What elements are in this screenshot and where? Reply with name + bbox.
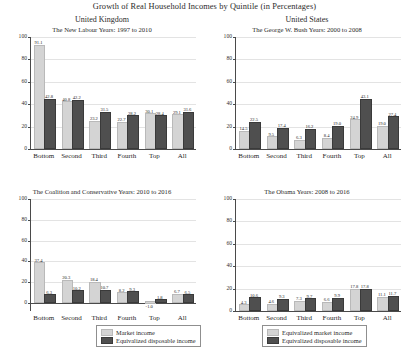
bar — [100, 112, 112, 149]
y-axis-tick-label: 20 — [21, 124, 27, 130]
bar-value-label: 43.1 — [356, 95, 374, 100]
plot-area: 02040608010037.46.3Bottom20.310.2Second1… — [30, 199, 196, 311]
legend-united-kingdom: Market incomeEquivalized disposable inco… — [96, 325, 201, 347]
bar-group: 19.027.4 — [377, 37, 397, 149]
x-axis-line — [235, 311, 401, 312]
bar — [305, 298, 317, 311]
bar — [72, 100, 84, 149]
legend-item: Market income — [101, 328, 196, 336]
bar-group: 37.46.3 — [34, 199, 54, 311]
bar — [155, 115, 167, 149]
bar-group: 91.142.8 — [34, 37, 54, 149]
plot-area: 02040608010014.522.5Bottom9.517.4Second6… — [235, 37, 401, 149]
y-axis-line — [235, 37, 236, 149]
bar-value-label: 18.4 — [85, 278, 103, 283]
x-axis-line — [30, 303, 196, 304]
plot-area: 02040608010091.142.8Bottom40.842.2Second… — [30, 37, 196, 149]
bar — [332, 126, 344, 149]
bar-group: 14.522.5 — [239, 37, 259, 149]
bar — [360, 289, 372, 311]
bar-value-label: 31.5 — [96, 108, 114, 113]
bar — [249, 297, 261, 311]
bar-group: 11.111.7 — [377, 199, 397, 311]
y-axis-tick-label: 60 — [226, 79, 232, 85]
bar-group: -1.01.8 — [145, 199, 165, 311]
bar-group: 8.29.3 — [117, 199, 137, 311]
bar-value-label: 10.7 — [96, 286, 114, 291]
gridline — [235, 221, 401, 222]
bar — [72, 290, 84, 303]
y-axis-tick-label: 40 — [226, 263, 232, 269]
bar-value-label: 6.5 — [179, 291, 197, 296]
bar-value-label: 91.1 — [30, 41, 48, 46]
legend-item: Equivalized market income — [267, 328, 362, 336]
bar — [277, 128, 289, 149]
panel-top-left: The New Labour Years: 1997 to 2010 02040… — [0, 26, 204, 184]
y-axis-line — [235, 199, 236, 311]
panel-subtitle: The Coalition and Conservative Years: 20… — [0, 188, 204, 195]
bar-group: 18.410.7 — [89, 199, 109, 311]
legend-label: Market income — [116, 329, 155, 336]
bar-value-label: 27.4 — [384, 113, 402, 118]
bar-group: 24.943.1 — [350, 37, 370, 149]
gridline — [30, 82, 196, 83]
bar-value-label: 9.7 — [301, 295, 319, 300]
bar-value-label: 10.6 — [245, 294, 263, 299]
bar-group: 17.817.8 — [350, 199, 370, 311]
bar — [127, 291, 139, 303]
bar-value-label: 9.3 — [123, 288, 141, 293]
bar — [332, 298, 344, 311]
y-axis-tick-label: 40 — [21, 101, 27, 107]
y-axis-line — [30, 199, 31, 311]
bar-group: 8.419.0 — [322, 37, 342, 149]
legend-label: Equivalized disposable income — [282, 337, 362, 344]
legend-label: Equivalized market income — [282, 329, 352, 336]
y-axis-tick-label: 20 — [226, 124, 232, 130]
y-axis-tick-label: 80 — [21, 217, 27, 223]
bar-value-label: 9.9 — [328, 294, 346, 299]
bar-value-label: 22.5 — [245, 118, 263, 123]
x-axis-category-label: All — [368, 314, 406, 322]
panel-bottom-left: The Coalition and Conservative Years: 20… — [0, 188, 204, 346]
bar-group: 40.842.2 — [62, 37, 82, 149]
figure-title: Growth of Real Household Incomes by Quin… — [0, 2, 409, 11]
legend-item: Equivalized disposable income — [101, 336, 196, 344]
gridline — [30, 199, 196, 200]
x-axis-category-label: All — [163, 152, 201, 160]
gridline — [235, 59, 401, 60]
bar-value-label: 42.8 — [40, 95, 58, 100]
gridline — [30, 241, 196, 242]
bar-value-label: 37.4 — [30, 259, 48, 264]
bar-group: 22.728.2 — [117, 37, 137, 149]
gridline — [30, 282, 196, 283]
gridline — [235, 244, 401, 245]
bar-value-label: 28.2 — [123, 112, 141, 117]
bar-group: 4.69.3 — [267, 199, 287, 311]
legend-swatch — [267, 337, 279, 344]
y-axis-tick-label: 60 — [226, 241, 232, 247]
legend-swatch — [101, 337, 113, 344]
bar — [388, 296, 400, 311]
gridline — [235, 37, 401, 38]
legend-swatch — [101, 329, 113, 336]
y-axis-tick-label: 40 — [226, 101, 232, 107]
bar-value-label: 11.7 — [384, 292, 402, 297]
bar-group: 23.231.5 — [89, 37, 109, 149]
bar — [183, 294, 195, 303]
bar-value-label: 16.2 — [301, 125, 319, 130]
bar-group: 6.76.5 — [172, 199, 192, 311]
bar-value-label: 6.3 — [40, 291, 58, 296]
bar-group: 9.517.4 — [267, 37, 287, 149]
panel-subtitle: The Obama Years: 2008 to 2016 — [205, 188, 409, 195]
bar-value-label: 1.8 — [151, 296, 169, 301]
country-title-us: United States — [205, 15, 409, 24]
gridline — [235, 289, 401, 290]
gridline — [235, 199, 401, 200]
legend-united-states: Equivalized market incomeEquivalized dis… — [262, 325, 367, 347]
y-axis-tick-label: 20 — [226, 286, 232, 292]
bar-value-label: 31.6 — [179, 108, 197, 113]
panel-subtitle: The New Labour Years: 1997 to 2010 — [0, 26, 204, 33]
gridline — [235, 266, 401, 267]
y-axis-tick-label: 60 — [21, 238, 27, 244]
bar-value-label: 9.3 — [273, 295, 291, 300]
